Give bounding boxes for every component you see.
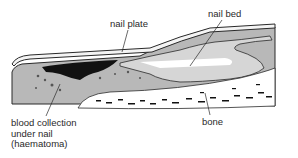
nail-plate-label: nail plate — [110, 19, 148, 30]
blood-collection-label-line-3: (haematoma) — [11, 139, 77, 150]
nail-bed-label: nail bed — [208, 9, 241, 20]
bone-label: bone — [202, 117, 223, 128]
nail-plate-leader — [122, 30, 128, 52]
blood-collection-label: blood collection under nail (haematoma) — [11, 118, 77, 150]
blood-collection-label-line-1: blood collection — [11, 118, 77, 129]
